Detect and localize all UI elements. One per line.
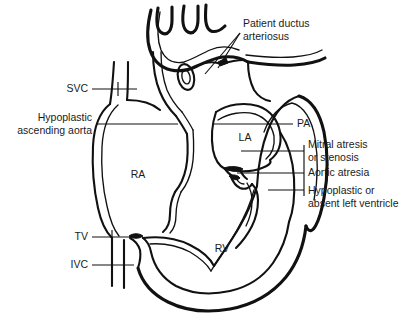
superior-vena-cava [110, 62, 128, 104]
descending-aorta [246, 50, 325, 65]
chamber-label-la: LA [239, 131, 252, 143]
labels-group: RA LA RV Patient ductus arteriosus SVC H… [17, 17, 398, 270]
heart-diagram-svg: RA LA RV Patient ductus arteriosus SVC H… [0, 0, 411, 321]
chamber-label-rv: RV [215, 242, 229, 254]
callout-aortic-atresia: Aortic atresia [308, 166, 369, 178]
chamber-label-ra: RA [131, 168, 146, 180]
callout-patent-ductus-arteriosus-line2: arteriosus [243, 30, 289, 42]
callout-hypoplastic-ascending-aorta-line2: ascending aorta [17, 124, 92, 136]
callout-hypoplastic-ascending-aorta-line1: Hypoplastic [38, 111, 92, 123]
leader-ductus-a [205, 33, 240, 74]
callout-tv: TV [75, 230, 88, 242]
callout-mitral-atresia-line1: Mitral atresis [308, 138, 368, 150]
callout-hypoplastic-lv-line1: Hypoplastic or [308, 184, 375, 196]
callout-pa: PA [297, 117, 310, 129]
callout-mitral-atresia-line2: or stenosis [308, 151, 359, 163]
callout-ivc: IVC [70, 258, 88, 270]
right-ventricle [138, 222, 306, 311]
callout-patent-ductus-arteriosus-line1: Patient ductus [243, 17, 310, 29]
callout-svc: SVC [66, 82, 88, 94]
tricuspid-valve [129, 234, 151, 268]
callout-hypoplastic-lv-line2: absent left ventricle [308, 197, 399, 209]
brachiocephalic-vessels [157, 5, 225, 34]
inferior-vena-cava [112, 238, 124, 288]
av-groove [280, 132, 294, 222]
figure-canvas: RA LA RV Patient ductus arteriosus SVC H… [0, 0, 411, 321]
leader-lines-group [92, 33, 304, 272]
